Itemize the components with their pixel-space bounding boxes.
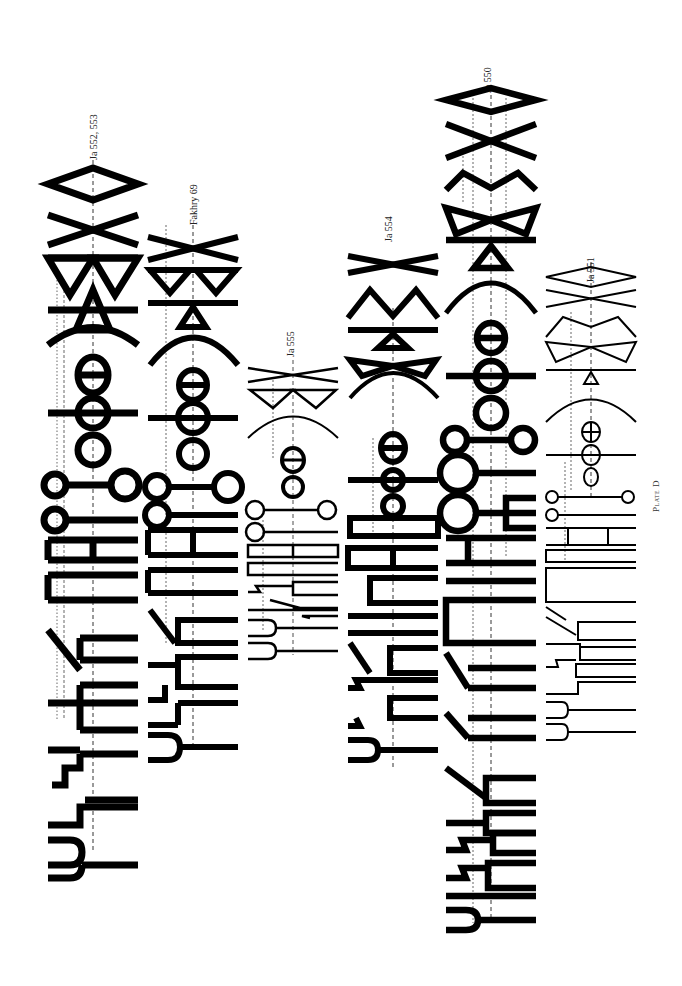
inscription-label-ja552-553: Ja 552, 553: [88, 114, 99, 160]
inscription-ja552-553: [40, 160, 150, 880]
inscription-ja551: [538, 262, 648, 762]
inscription-ja550: [438, 88, 548, 933]
inscription-ja554: [340, 248, 450, 768]
inscription-ja555: [240, 360, 350, 660]
plate-caption: Plate D: [651, 480, 661, 512]
inscription-fakhry69: [140, 225, 250, 765]
inscription-label-ja555: Ja 555: [285, 331, 296, 357]
plate-d: Ja 552, 553: [0, 0, 682, 986]
inscription-label-ja554: Ja 554: [383, 216, 394, 242]
inscription-label-fakhry69: Fakhry 69: [188, 184, 199, 225]
